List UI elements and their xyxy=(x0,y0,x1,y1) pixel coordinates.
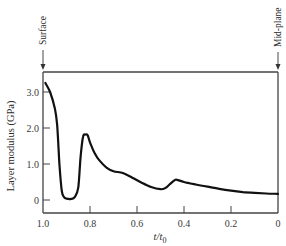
x-axis-ticks: 1.00.80.60.40.20 xyxy=(37,206,281,229)
y-tick-label: 2.0 xyxy=(27,123,40,134)
surface-marker: Surface xyxy=(38,16,48,70)
surface-arrowhead-icon xyxy=(41,64,46,70)
y-axis-title: Layer modulus (GPa) xyxy=(5,100,17,191)
y-tick-label: 0 xyxy=(34,195,39,206)
layer-modulus-chart: 01.02.03.0 1.00.80.60.40.20 Surface Mid-… xyxy=(0,0,286,246)
midplane-arrowhead-icon xyxy=(276,64,281,70)
x-tick-label: 0.2 xyxy=(225,218,238,229)
modulus-curve xyxy=(45,83,278,199)
x-tick-label: 0.8 xyxy=(84,218,97,229)
surface-label: Surface xyxy=(38,16,48,45)
midplane-label: Mid-plane xyxy=(273,7,283,47)
midplane-marker: Mid-plane xyxy=(273,7,283,70)
x-tick-label: 0.6 xyxy=(131,218,144,229)
y-tick-label: 3.0 xyxy=(27,87,40,98)
x-tick-label: 0.4 xyxy=(178,218,191,229)
y-tick-label: 1.0 xyxy=(27,159,40,170)
x-tick-label: 1.0 xyxy=(37,218,50,229)
y-axis-ticks: 01.02.03.0 xyxy=(27,87,51,206)
x-axis-title: t/t0 xyxy=(154,231,167,245)
x-tick-label: 0 xyxy=(276,218,281,229)
